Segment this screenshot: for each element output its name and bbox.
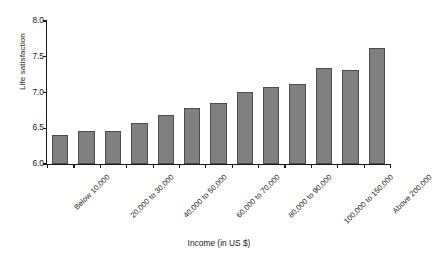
x-axis-tick-label-text: 100,000 to 150,000 <box>342 172 395 225</box>
bar <box>342 70 358 164</box>
x-axis-tick <box>258 164 259 168</box>
x-axis-tick-label: 80,000 to 90,000 <box>288 171 335 218</box>
x-axis-tick <box>337 164 338 168</box>
x-axis-tick-label: 40,000 to 50,000 <box>183 171 230 218</box>
x-axis-tick <box>179 164 180 168</box>
x-axis-tick-label-text: Below 10,000 <box>72 172 111 211</box>
bar <box>52 135 68 164</box>
bar <box>184 108 200 164</box>
bar <box>237 92 253 164</box>
bar <box>289 84 305 164</box>
y-axis-tick-label: 7.0 <box>32 87 44 97</box>
bar <box>78 131 94 164</box>
x-axis-tick-label-text: 20,000 to 30,000 <box>128 172 175 219</box>
x-axis-tick <box>153 164 154 168</box>
x-axis-tick-label: 100,000 to 150,000 <box>343 171 396 224</box>
x-axis-tick-label-text: 80,000 to 90,000 <box>287 172 334 219</box>
x-axis-tick <box>232 164 233 168</box>
x-axis-tick-label-text: 40,000 to 50,000 <box>181 172 228 219</box>
plot-area: 8.07.57.06.56.0 Below 10,00020,000 to 30… <box>47 21 390 164</box>
bar <box>131 123 147 164</box>
bar-chart-figure: Life satisfaction 8.07.57.06.56.0 Below … <box>0 0 438 263</box>
bar <box>316 68 332 164</box>
x-axis-tick <box>47 164 48 168</box>
y-axis-tick-label: 8.0 <box>32 15 44 25</box>
x-axis-tick-label: Below 10,000 <box>74 171 113 210</box>
bar <box>105 131 121 164</box>
x-axis-tick <box>205 164 206 168</box>
x-axis-tick-label-text: Above 200,000 <box>391 172 434 215</box>
x-axis-tick-label: Above 200,000 <box>392 171 435 214</box>
x-axis-tick <box>390 164 391 168</box>
y-axis-tick-label: 6.5 <box>32 122 44 132</box>
x-axis-tick <box>100 164 101 168</box>
bar <box>369 48 385 164</box>
x-axis-tick <box>126 164 127 168</box>
x-axis-tick <box>284 164 285 168</box>
y-axis-tick-label: 7.5 <box>32 51 44 61</box>
bar <box>210 103 226 164</box>
bar <box>263 87 279 164</box>
x-axis-title: Income (in US $) <box>0 238 438 248</box>
x-axis-tick-label: 60,000 to 70,000 <box>235 171 282 218</box>
x-axis-tick-label-text: 60,000 to 70,000 <box>234 172 281 219</box>
x-axis-tick <box>73 164 74 168</box>
y-axis-tick-label: 6.0 <box>32 158 44 168</box>
x-axis-tick <box>364 164 365 168</box>
bar <box>158 115 174 164</box>
y-axis-title: Life satisfaction <box>18 2 27 122</box>
x-axis-tick-label: 20,000 to 30,000 <box>130 171 177 218</box>
x-axis-tick <box>311 164 312 168</box>
